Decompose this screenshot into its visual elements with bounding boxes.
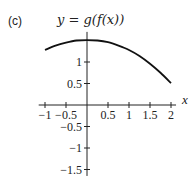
- x-tick-label: 0.5: [101, 108, 116, 122]
- x-tick-label: −1: [39, 108, 52, 122]
- x-axis-label: x: [181, 92, 188, 107]
- y-tick-label: 1: [76, 55, 82, 69]
- chart-plot: −1−0.50.511.5210.5−0.5−1−1.5 x: [0, 0, 195, 180]
- y-tick-label: −1.5: [60, 163, 82, 177]
- axes: [39, 32, 176, 176]
- curve-g-of-f: [45, 40, 171, 83]
- x-tick-label: 2: [168, 108, 174, 122]
- y-tick-label: 0.5: [67, 77, 82, 91]
- y-tick-label: −0.5: [60, 120, 82, 134]
- x-tick-label: 1: [126, 108, 132, 122]
- x-tick-label: 1.5: [143, 108, 158, 122]
- tick-labels: −1−0.50.511.5210.5−0.5−1−1.5: [39, 55, 174, 177]
- y-tick-label: −1: [69, 141, 82, 155]
